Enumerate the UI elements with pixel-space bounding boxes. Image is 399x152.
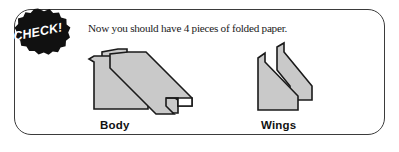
figure-wings <box>250 40 322 118</box>
check-badge: CHECK! <box>5 7 71 57</box>
caption-text: Now you should have 4 pieces of folded p… <box>88 22 338 34</box>
figure-body <box>82 38 194 118</box>
check-badge-starburst-icon <box>5 7 71 57</box>
figure-body-label: Body <box>100 119 130 131</box>
wings-paper-diagram-icon <box>250 40 322 118</box>
page-root: CHECK! Now you should have 4 pieces of f… <box>0 0 399 152</box>
figure-wings-label: Wings <box>261 119 296 131</box>
body-paper-diagram-icon <box>82 38 194 118</box>
